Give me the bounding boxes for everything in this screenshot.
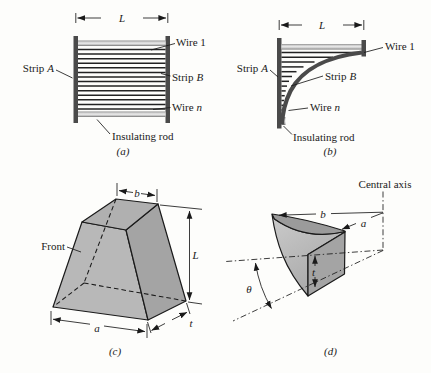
dim-a-label-d: a xyxy=(361,217,367,229)
label-wiren-a: Wiren xyxy=(172,101,203,113)
caption-a: (a) xyxy=(117,145,130,158)
leader-wire1-b xyxy=(364,48,383,53)
dim-b-label-c: b xyxy=(134,187,140,199)
label-stripB-a: StripB xyxy=(172,71,203,83)
dim-a-label-c: a xyxy=(94,322,100,334)
label-wiren-b: Wiren xyxy=(310,101,341,113)
dim-b-label-d: b xyxy=(320,208,326,220)
leader-insulating-rod-b xyxy=(284,126,293,135)
annular-wedge-solid xyxy=(272,214,345,296)
dim-t-label-c: t xyxy=(189,317,193,329)
figure-canvas: L Wire 1 StripA StripB xyxy=(0,0,431,373)
wires-a xyxy=(78,50,166,110)
leader-wiren-b xyxy=(289,108,309,111)
dimension-b-c: b xyxy=(117,183,157,202)
insulating-rod-top-a xyxy=(78,41,166,47)
dimension-L-b: L xyxy=(279,19,364,31)
caption-d: (d) xyxy=(324,345,337,358)
insulating-rod-top-b xyxy=(282,44,363,50)
truncated-pyramid-solid xyxy=(53,199,186,320)
dim-L-label-b: L xyxy=(318,19,325,31)
leader-stripA-a xyxy=(56,70,73,78)
leader-insulating-rod-a xyxy=(97,120,110,135)
figure-page: L Wire 1 StripA StripB xyxy=(0,0,431,373)
dimension-L-a: L xyxy=(76,12,168,24)
panel-d: Central axis b a θ t (d) xyxy=(226,178,411,358)
label-wire1-b: Wire 1 xyxy=(385,40,415,52)
leader-stripA-b xyxy=(270,70,278,77)
angle-theta-label: θ xyxy=(246,283,252,295)
label-stripA-b: StripA xyxy=(237,62,268,74)
label-central-axis: Central axis xyxy=(359,178,412,190)
label-insulating-rod-a: Insulating rod xyxy=(112,130,174,142)
strip-A-bar-a xyxy=(74,36,79,123)
radius-a-leader: a xyxy=(342,213,383,230)
theta-arc xyxy=(256,263,272,309)
strip-B-curve-b xyxy=(282,53,362,125)
label-insulating-rod-b: Insulating rod xyxy=(293,131,355,143)
caption-c: (c) xyxy=(109,345,122,358)
label-wire1-a: Wire 1 xyxy=(176,36,206,48)
dim-L-label-a: L xyxy=(118,12,125,24)
dim-L-label-c: L xyxy=(192,249,199,261)
insulating-rod-bottom-a xyxy=(78,112,166,118)
panel-b: L Wire 1 StripA StripB xyxy=(237,19,415,159)
label-stripB-b: StripB xyxy=(325,70,356,82)
strip-B-bar-a xyxy=(166,36,171,123)
label-stripA-a: StripA xyxy=(23,62,54,74)
panel-a: L Wire 1 StripA StripB xyxy=(23,12,206,159)
caption-b: (b) xyxy=(324,145,337,158)
panel-c: b L a t Front (c) xyxy=(41,183,202,358)
label-front-c: Front xyxy=(41,240,65,252)
